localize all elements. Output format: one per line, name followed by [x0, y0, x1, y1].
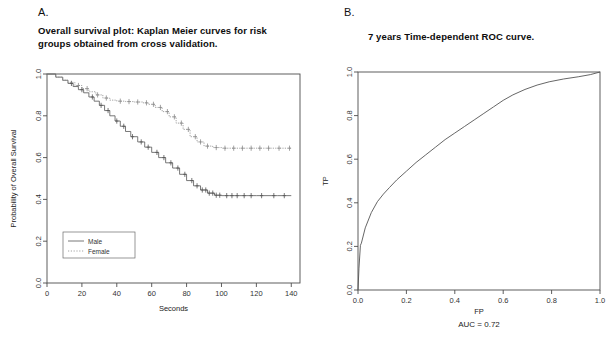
- censor-marks-male: [70, 81, 286, 198]
- plot-frame: [358, 72, 600, 290]
- y-tick-label: 0.2: [34, 236, 43, 246]
- y-tick-label: 0.6: [345, 154, 354, 164]
- x-tick-label: 60: [148, 289, 156, 298]
- y-tick-label: 0.8: [34, 111, 43, 121]
- y-tick-label: 0.2: [345, 241, 354, 251]
- legend-label-female: Female: [88, 248, 110, 255]
- x-tick-label: 20: [78, 289, 86, 298]
- y-tick-label: 0.0: [34, 278, 43, 288]
- legend: MaleFemale: [63, 232, 135, 258]
- x-tick-label: 0.4: [450, 296, 460, 305]
- x-axis-label: FP: [474, 307, 484, 316]
- y-axis-label: TP: [321, 176, 330, 186]
- x-tick-label: 120: [250, 289, 263, 298]
- y-tick-label: 0.4: [34, 194, 43, 204]
- panel-a-kaplan-meier: A. Overall survival plot: Kaplan Meier c…: [0, 0, 306, 343]
- x-tick-label: 0: [45, 289, 49, 298]
- survival-curve-female: [47, 74, 291, 148]
- x-tick-label: 0.8: [546, 296, 556, 305]
- plot-frame: [47, 74, 300, 283]
- roc-curve-line: [358, 72, 600, 290]
- figure-root: A. Overall survival plot: Kaplan Meier c…: [0, 0, 612, 343]
- censor-marks-female: [77, 83, 291, 151]
- x-tick-label: 100: [215, 289, 228, 298]
- panel-b-roc: B. 7 years Time-dependent ROC curve. 0.0…: [306, 0, 612, 343]
- y-tick-label: 0.8: [345, 110, 354, 120]
- y-tick-label: 0.4: [345, 198, 354, 208]
- x-tick-label: 0.0: [353, 296, 363, 305]
- y-tick-label: 0.0: [345, 285, 354, 295]
- x-tick-label: 80: [182, 289, 190, 298]
- y-tick-label: 0.6: [34, 152, 43, 162]
- legend-label-male: Male: [88, 238, 102, 245]
- auc-annotation: AUC = 0.72: [458, 320, 500, 329]
- kaplan-meier-plot: 0.00.20.40.60.81.0020406080100120140Prob…: [0, 0, 306, 343]
- roc-plot: 0.00.20.40.60.81.00.00.20.40.60.81.0TPFP…: [306, 0, 612, 343]
- x-tick-label: 0.2: [401, 296, 411, 305]
- y-tick-label: 1.0: [34, 69, 43, 79]
- x-tick-label: 140: [285, 289, 298, 298]
- y-axis-label: Probability of Overall Survival: [9, 129, 18, 227]
- x-tick-label: 0.6: [498, 296, 508, 305]
- y-tick-label: 1.0: [345, 67, 354, 77]
- x-tick-label: 40: [113, 289, 121, 298]
- x-axis-label: Seconds: [159, 304, 188, 313]
- x-tick-label: 1.0: [595, 296, 605, 305]
- survival-curve-male: [47, 74, 291, 196]
